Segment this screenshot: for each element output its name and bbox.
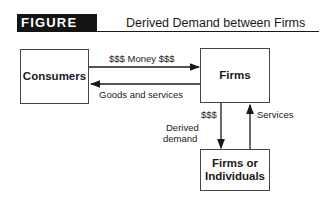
firms-label: Firms — [219, 69, 250, 82]
arrows-layer — [0, 0, 331, 208]
consumers-node: Consumers — [20, 49, 89, 104]
derived-money-label: $$$ — [201, 109, 217, 120]
consumers-label: Consumers — [23, 70, 86, 83]
derived-demand-label-line1: Derived — [166, 122, 199, 133]
services-label: Services — [257, 109, 293, 120]
firms-or-individuals-label-line2: Individuals — [205, 170, 265, 183]
firms-or-individuals-node: Firms or Individuals — [200, 149, 270, 191]
goods-services-label: Goods and services — [99, 89, 183, 100]
derived-demand-label-line2: demand — [163, 133, 197, 144]
firms-or-individuals-label-line1: Firms or — [212, 157, 258, 170]
firms-node: Firms — [200, 48, 270, 103]
money-label: $$$ Money $$$ — [109, 53, 175, 64]
